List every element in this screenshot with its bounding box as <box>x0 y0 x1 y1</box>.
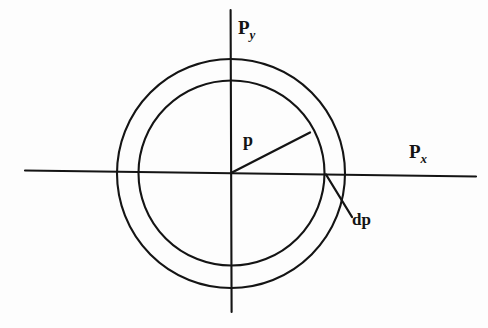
horizontal-axis-line <box>25 171 476 177</box>
shell-thickness-label-subscript: p <box>361 210 370 229</box>
axis-label-py: Py <box>238 18 255 37</box>
figure-canvas: Py Px p dp <box>0 0 488 328</box>
axis-label-py-subscript: y <box>250 27 256 42</box>
axis-label-px-base: P <box>409 141 421 162</box>
shell-thickness-label: dp <box>352 211 371 228</box>
radius-vector-label: p <box>243 131 253 149</box>
axis-label-py-base: P <box>238 17 250 38</box>
axis-label-px-subscript: x <box>421 151 428 166</box>
axis-label-px: Px <box>409 142 427 161</box>
momentum-space-diagram <box>0 0 488 328</box>
vertical-axis-line <box>231 10 232 312</box>
